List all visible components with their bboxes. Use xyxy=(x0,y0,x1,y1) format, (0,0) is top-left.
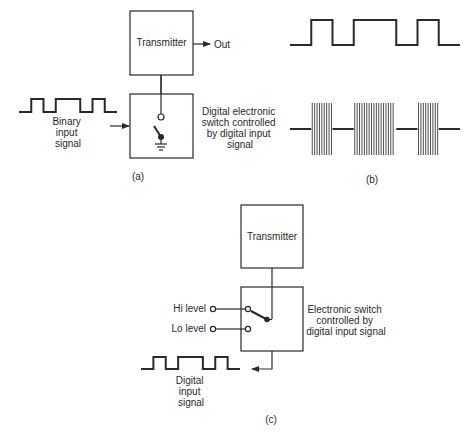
hi-level-label: Hi level xyxy=(173,303,206,314)
out-label: Out xyxy=(214,39,230,50)
carrier-burst xyxy=(419,103,438,155)
switch-description-a: Digital electronic switch controlled by … xyxy=(202,106,279,150)
lo-level-label: Lo level xyxy=(172,323,206,334)
binary-input-waveform xyxy=(19,99,117,112)
modulated-carrier-waveform xyxy=(290,103,460,155)
caption-b: (b) xyxy=(366,174,378,185)
hi-terminal-icon xyxy=(210,306,215,311)
diagram-canvas: Transmitter Out Binary input signal Digi… xyxy=(0,0,473,439)
lo-terminal-icon xyxy=(210,326,215,331)
switch-description-c: Electronic switch controlled by digital … xyxy=(306,304,386,337)
digital-input-label: Digital input signal xyxy=(176,375,207,408)
transmitter-label-c: Transmitter xyxy=(247,231,298,242)
panel-c: Transmitter Hi level Lo level Electronic… xyxy=(141,205,386,425)
caption-c: (c) xyxy=(265,414,277,425)
transmitter-label-a: Transmitter xyxy=(136,37,187,48)
binary-input-label: Binary input signal xyxy=(52,116,83,149)
hi-contact-icon xyxy=(245,306,250,311)
panel-a: Transmitter Out Binary input signal Digi… xyxy=(19,11,278,182)
carrier-burst xyxy=(312,103,331,155)
switch-contact-icon xyxy=(158,114,164,120)
panel-b: (b) xyxy=(290,20,460,185)
caption-a: (a) xyxy=(132,171,144,182)
feedback-arrow-c xyxy=(252,351,272,369)
carrier-burst xyxy=(355,103,393,155)
digital-waveform-b xyxy=(290,20,460,45)
lo-contact-icon xyxy=(245,326,250,331)
digital-input-waveform-c xyxy=(141,357,240,369)
